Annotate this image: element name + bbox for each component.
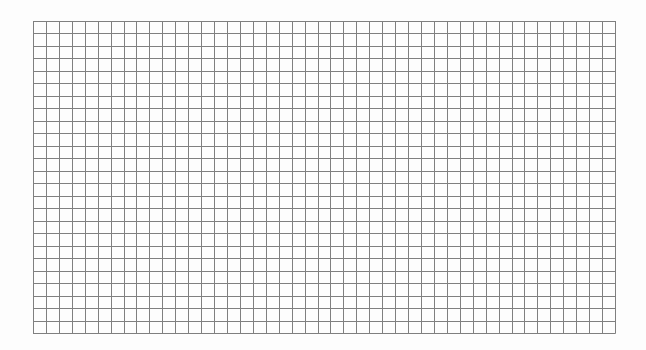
grid-lines [33,21,616,334]
graph-paper-grid [33,21,616,334]
canvas [0,0,646,350]
